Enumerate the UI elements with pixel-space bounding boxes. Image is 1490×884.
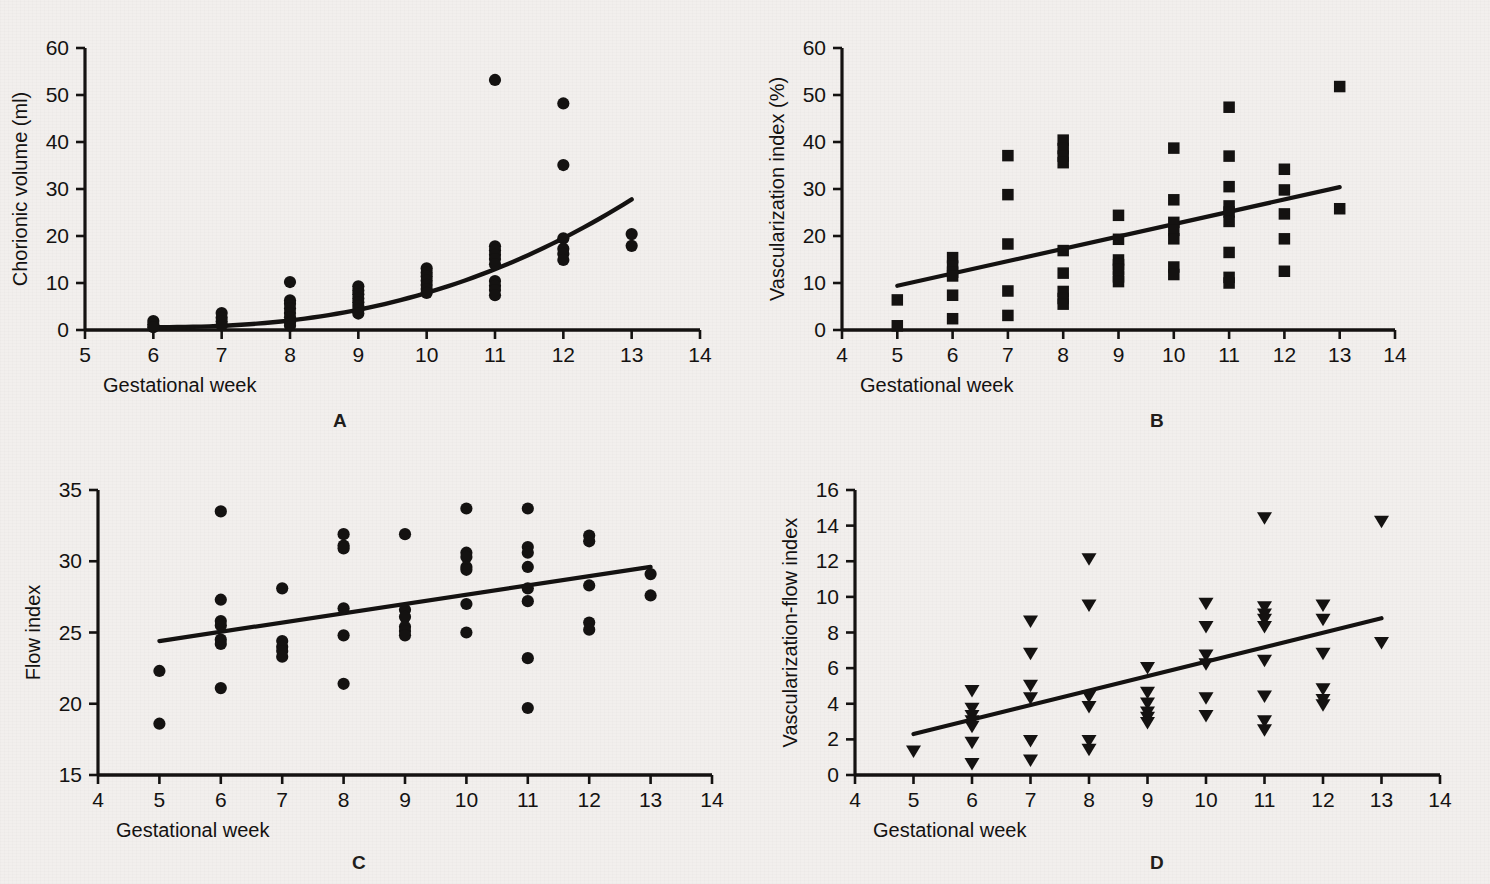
- data-point: [338, 678, 350, 690]
- data-point: [522, 502, 534, 514]
- data-point: [489, 289, 501, 301]
- data-point: [583, 579, 595, 591]
- data-point: [522, 547, 534, 559]
- data-point: [645, 589, 657, 601]
- panel-b-plot: 45678910111213140102030405060Vasculariza…: [745, 0, 1490, 442]
- data-point: [965, 721, 980, 734]
- x-tick-label: 8: [1057, 343, 1069, 366]
- data-point: [1223, 181, 1235, 193]
- data-point: [1279, 164, 1291, 176]
- x-tick-label: 7: [216, 343, 228, 366]
- data-point: [215, 682, 227, 694]
- data-point: [489, 258, 501, 270]
- data-point: [1223, 216, 1235, 228]
- x-tick-label: 14: [1383, 343, 1407, 366]
- x-tick-label: 5: [908, 788, 920, 811]
- data-point: [557, 159, 569, 171]
- y-tick-label: 10: [803, 271, 826, 294]
- data-point: [1082, 553, 1097, 566]
- data-point: [947, 270, 959, 282]
- data-point: [338, 542, 350, 554]
- data-point: [1023, 648, 1038, 661]
- data-point: [1140, 687, 1155, 700]
- data-point: [216, 319, 228, 331]
- y-axis-label: Vascularization index (%): [766, 77, 788, 301]
- x-tick-label: 10: [1194, 788, 1217, 811]
- y-axis-label: Vascularization-flow index: [779, 518, 801, 748]
- data-point: [1082, 701, 1097, 714]
- y-tick-label: 50: [803, 83, 826, 106]
- data-point: [583, 535, 595, 547]
- panel-b: 45678910111213140102030405060Vasculariza…: [745, 0, 1490, 442]
- data-point: [1002, 150, 1014, 162]
- data-point: [947, 289, 959, 301]
- x-tick-label: 10: [415, 343, 438, 366]
- y-tick-label: 20: [59, 692, 82, 715]
- x-tick-label: 13: [1328, 343, 1351, 366]
- data-point: [147, 321, 159, 333]
- data-point: [1002, 238, 1014, 250]
- y-tick-label: 0: [814, 318, 826, 341]
- y-tick-label: 16: [816, 478, 839, 501]
- data-point: [1374, 637, 1389, 650]
- y-tick-label: 8: [827, 621, 839, 644]
- y-tick-label: 12: [816, 549, 839, 572]
- data-point: [460, 598, 472, 610]
- y-tick-label: 30: [803, 177, 826, 200]
- data-point: [892, 294, 904, 306]
- data-point: [1279, 266, 1291, 278]
- data-point: [965, 685, 980, 698]
- x-tick-label: 6: [947, 343, 959, 366]
- y-axis-label: Chorionic volume (ml): [9, 92, 31, 287]
- x-tick-label: 12: [1311, 788, 1334, 811]
- x-tick-label: 11: [517, 788, 539, 811]
- y-tick-label: 2: [827, 727, 839, 750]
- panel-c-letter: C: [352, 852, 366, 874]
- data-point: [153, 665, 165, 677]
- y-tick-label: 60: [803, 36, 826, 59]
- data-point: [1113, 234, 1125, 246]
- x-tick-label: 7: [276, 788, 288, 811]
- x-tick-label: 9: [1142, 788, 1154, 811]
- data-point: [1316, 699, 1331, 712]
- data-point: [1057, 267, 1069, 279]
- data-point: [1082, 600, 1097, 613]
- y-tick-label: 15: [59, 763, 82, 786]
- data-point: [215, 638, 227, 650]
- x-tick-label: 7: [1002, 343, 1014, 366]
- data-point: [965, 758, 980, 771]
- data-point: [1257, 724, 1272, 737]
- x-tick-label: 12: [1273, 343, 1296, 366]
- x-axis-label: Gestational week: [873, 819, 1027, 841]
- y-tick-label: 10: [816, 585, 839, 608]
- data-point: [1199, 692, 1214, 705]
- x-tick-label: 11: [484, 343, 506, 366]
- data-point: [1334, 203, 1346, 215]
- data-point: [1023, 616, 1038, 629]
- data-point: [1223, 101, 1235, 113]
- y-tick-label: 20: [46, 224, 69, 247]
- data-point: [1002, 310, 1014, 322]
- figure-panel-grid: 5678910111213140102030405060Chorionic vo…: [0, 0, 1490, 884]
- x-tick-label: 10: [455, 788, 478, 811]
- data-point: [1279, 233, 1291, 245]
- data-point: [1316, 600, 1331, 613]
- x-tick-label: 12: [578, 788, 601, 811]
- y-tick-label: 30: [59, 549, 82, 572]
- data-point: [1082, 744, 1097, 757]
- data-point: [1057, 298, 1069, 310]
- data-point: [1223, 247, 1235, 259]
- data-point: [1002, 189, 1014, 201]
- data-point: [1316, 648, 1331, 661]
- x-tick-label: 14: [1428, 788, 1452, 811]
- x-tick-label: 4: [836, 343, 848, 366]
- x-tick-label: 8: [1083, 788, 1095, 811]
- data-point: [1199, 621, 1214, 634]
- x-axis-label: Gestational week: [103, 374, 257, 396]
- panel-c-plot: 45678910111213141520253035Flow indexGest…: [0, 442, 745, 884]
- data-point: [352, 307, 364, 319]
- panel-d-plot: 45678910111213140246810121416Vasculariza…: [745, 442, 1490, 884]
- y-tick-label: 0: [827, 763, 839, 786]
- panel-c: 45678910111213141520253035Flow indexGest…: [0, 442, 745, 884]
- data-point: [1113, 276, 1125, 288]
